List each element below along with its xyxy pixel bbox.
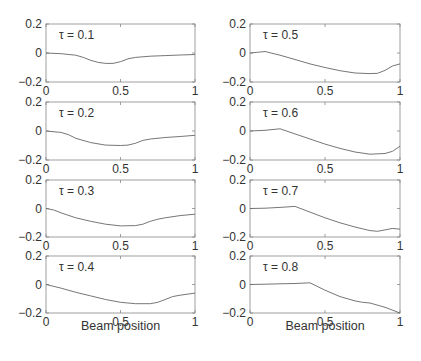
x-tick-label: 0.5 — [112, 162, 129, 176]
panel-tau-label: τ = 0.7 — [263, 184, 298, 198]
x-tick-label: 1 — [192, 315, 199, 329]
x-tick-label: 0 — [43, 84, 50, 98]
y-tick-label: 0.2 — [229, 173, 246, 187]
x-tick-label: 1 — [192, 162, 199, 176]
x-tick-label: 0.5 — [317, 84, 334, 98]
x-tick-label: 1 — [397, 239, 404, 253]
panel-tau-label: τ = 0.2 — [59, 106, 94, 120]
panel-tau-label: τ = 0.8 — [263, 260, 298, 274]
y-tick-label: −0.2 — [18, 75, 42, 89]
y-tick-label: 0.2 — [229, 249, 246, 263]
panel-tau-label: τ = 0.5 — [263, 28, 298, 42]
x-tick-label: 1 — [397, 315, 404, 329]
x-tick-label: 1 — [192, 84, 199, 98]
x-tick-label: 0.5 — [317, 239, 334, 253]
y-tick-label: 0 — [35, 202, 42, 216]
x-tick-label: 0 — [247, 84, 254, 98]
x-tick-label: 0.5 — [112, 84, 129, 98]
x-axis-label: Beam position — [285, 319, 364, 333]
y-tick-label: 0.2 — [25, 249, 42, 263]
panel-tau-label: τ = 0.1 — [59, 28, 94, 42]
y-tick-label: −0.2 — [222, 153, 246, 167]
y-tick-label: 0.2 — [25, 173, 42, 187]
y-tick-label: 0.2 — [229, 95, 246, 109]
y-tick-label: 0.2 — [25, 95, 42, 109]
y-tick-label: 0 — [239, 46, 246, 60]
x-tick-label: 1 — [397, 162, 404, 176]
y-tick-label: −0.2 — [222, 75, 246, 89]
panel-tau-label: τ = 0.4 — [59, 260, 94, 274]
figure: 0.20−0.200.51τ = 0.10.20−0.200.51τ = 0.2… — [0, 0, 421, 361]
x-tick-label: 0 — [247, 239, 254, 253]
x-tick-label: 0.5 — [317, 162, 334, 176]
y-tick-label: 0 — [35, 278, 42, 292]
panel-tau-label: τ = 0.3 — [59, 184, 94, 198]
y-tick-label: 0 — [239, 202, 246, 216]
y-tick-label: 0 — [239, 278, 246, 292]
x-tick-label: 0 — [247, 162, 254, 176]
x-tick-label: 1 — [397, 84, 404, 98]
y-tick-label: 0 — [35, 46, 42, 60]
y-tick-label: −0.2 — [18, 230, 42, 244]
y-tick-label: 0.2 — [229, 17, 246, 31]
x-axis-label: Beam position — [81, 319, 160, 333]
x-tick-label: 0 — [43, 162, 50, 176]
y-tick-label: −0.2 — [222, 230, 246, 244]
y-tick-label: −0.2 — [18, 306, 42, 320]
x-tick-label: 1 — [192, 239, 199, 253]
y-tick-label: −0.2 — [18, 153, 42, 167]
y-tick-label: 0 — [239, 124, 246, 138]
x-tick-label: 0 — [43, 239, 50, 253]
x-tick-label: 0.5 — [112, 239, 129, 253]
y-tick-label: 0 — [35, 124, 42, 138]
x-tick-label: 0 — [247, 315, 254, 329]
y-tick-label: −0.2 — [222, 306, 246, 320]
y-tick-label: 0.2 — [25, 17, 42, 31]
x-tick-label: 0 — [43, 315, 50, 329]
panel-tau-label: τ = 0.6 — [263, 106, 298, 120]
